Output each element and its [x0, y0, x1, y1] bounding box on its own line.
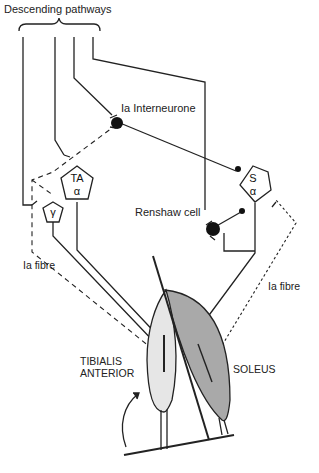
- renshaw-collateral: [224, 233, 255, 251]
- gamma-cell-label: γ: [46, 207, 60, 218]
- tibialis-label-line2: ANTERIOR: [80, 368, 134, 379]
- descending-brace: [19, 18, 100, 31]
- soleus-label: SOLEUS: [233, 364, 276, 375]
- pathway-1: [23, 37, 32, 205]
- ta-cell-label-top: TA: [67, 173, 87, 184]
- pathway-4: [93, 37, 205, 210]
- renshaw-cell-body: [206, 222, 220, 236]
- renshaw-cell-label: Renshaw cell: [135, 207, 200, 218]
- ia-interneurone-label: Ia Interneurone: [121, 103, 196, 114]
- base-line: [124, 435, 234, 455]
- tibialis-label-line1: TIBIALIS: [80, 356, 122, 367]
- ia-fibre-left: [32, 128, 160, 355]
- rotation-arrow: [122, 394, 138, 447]
- pathway-2: [55, 37, 64, 155]
- ia-interneurone-body: [111, 117, 123, 129]
- ia-fibre-left-label: Ia fibre: [23, 260, 55, 271]
- ta-motor-axon: [77, 202, 162, 340]
- s-cell-label-top: S: [245, 173, 261, 184]
- ta-cell-label-alpha: α: [67, 186, 87, 197]
- descending-pathways-label: Descending pathways: [4, 4, 112, 15]
- gamma-axon: [53, 222, 157, 345]
- s-cell-label-alpha: α: [245, 186, 261, 197]
- neural-circuit-diagram: [0, 0, 319, 473]
- ia-fibre-right-label: Ia fibre: [268, 281, 300, 292]
- ia-inhib-axon: [120, 123, 236, 171]
